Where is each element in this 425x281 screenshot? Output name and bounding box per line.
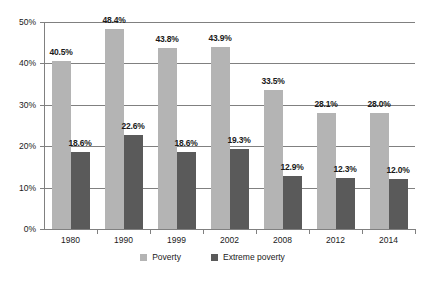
y-tick-label: 20% — [0, 141, 36, 151]
legend-swatch-icon — [211, 254, 218, 261]
bar-value-label: 28.0% — [367, 99, 390, 109]
x-tick-label: 1999 — [167, 235, 186, 245]
bar[interactable]: 18.6% — [71, 152, 90, 229]
x-axis-line — [44, 229, 415, 230]
legend-label: Extreme poverty — [223, 252, 285, 262]
bar[interactable]: 12.9% — [283, 176, 302, 229]
bar-group: 28.1%12.3% — [309, 22, 362, 229]
legend-swatch-icon — [140, 254, 147, 261]
legend-item-extreme-poverty[interactable]: Extreme poverty — [211, 252, 285, 262]
bar-value-label: 48.4% — [102, 15, 125, 25]
plot-area: 40.5%18.6%48.4%22.6%43.8%18.6%43.9%19.3%… — [44, 22, 415, 229]
bar-value-label: 40.5% — [49, 47, 72, 57]
bar-group: 43.8%18.6% — [150, 22, 203, 229]
y-tick-label: 0% — [0, 224, 36, 234]
bar-group: 28.0%12.0% — [362, 22, 415, 229]
bar-value-label: 12.3% — [333, 164, 356, 174]
x-tick-mark — [415, 229, 416, 234]
bar-value-label: 28.1% — [314, 99, 337, 109]
bar-group: 43.9%19.3% — [203, 22, 256, 229]
x-tick-mark — [97, 229, 98, 234]
bar[interactable]: 19.3% — [230, 149, 249, 229]
bar-value-label: 18.6% — [68, 138, 91, 148]
bar[interactable]: 33.5% — [264, 90, 283, 229]
chart-legend: Poverty Extreme poverty — [0, 252, 425, 262]
y-tick-label: 30% — [0, 100, 36, 110]
bar-value-label: 43.9% — [208, 33, 231, 43]
bar-value-label: 19.3% — [227, 135, 250, 145]
bar-value-label: 18.6% — [174, 138, 197, 148]
y-tick-label: 50% — [0, 17, 36, 27]
bar-value-label: 33.5% — [261, 76, 284, 86]
x-tick-mark — [150, 229, 151, 234]
x-tick-mark — [203, 229, 204, 234]
y-tick-label: 10% — [0, 183, 36, 193]
x-tick-mark — [309, 229, 310, 234]
bar-value-label: 43.8% — [155, 34, 178, 44]
bar-value-label: 12.0% — [386, 165, 409, 175]
legend-item-poverty[interactable]: Poverty — [140, 252, 181, 262]
bar-value-label: 22.6% — [121, 121, 144, 131]
x-tick-mark — [362, 229, 363, 234]
bar[interactable]: 12.3% — [336, 178, 355, 229]
bar[interactable]: 22.6% — [124, 135, 143, 229]
x-tick-label: 1980 — [61, 235, 80, 245]
x-tick-label: 2014 — [379, 235, 398, 245]
bar-group: 33.5%12.9% — [256, 22, 309, 229]
bar-group: 48.4%22.6% — [97, 22, 150, 229]
x-tick-mark — [256, 229, 257, 234]
bar[interactable]: 12.0% — [389, 179, 408, 229]
bar[interactable]: 18.6% — [177, 152, 196, 229]
x-tick-label: 2002 — [220, 235, 239, 245]
bar-group: 40.5%18.6% — [44, 22, 97, 229]
bar-chart: 40.5%18.6%48.4%22.6%43.8%18.6%43.9%19.3%… — [0, 0, 425, 281]
y-tick-mark — [40, 229, 44, 230]
x-tick-label: 1990 — [114, 235, 133, 245]
x-tick-label: 2012 — [326, 235, 345, 245]
y-tick-label: 40% — [0, 58, 36, 68]
legend-label: Poverty — [152, 252, 181, 262]
x-tick-label: 2008 — [273, 235, 292, 245]
bar-value-label: 12.9% — [280, 162, 303, 172]
